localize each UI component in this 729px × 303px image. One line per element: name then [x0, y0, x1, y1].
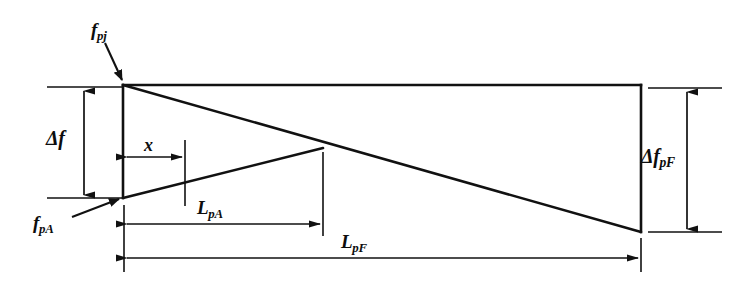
label-x: x [144, 136, 153, 154]
label-LpA: LpA [197, 198, 223, 217]
diagram-canvas [0, 0, 729, 303]
label-fpA: fpA [33, 213, 54, 232]
extension-lines [47, 87, 722, 272]
label-delta-f: Δf [46, 128, 64, 148]
leader-lines [72, 43, 122, 217]
prestress-force-diagram: fpj fpA Δf ΔfpF x LpA LpF [0, 0, 729, 303]
label-delta-f-pF-subscript: pF [659, 155, 675, 170]
diagonal-lower-line [123, 148, 323, 198]
label-fpj: fpj [91, 20, 107, 39]
label-LpF: LpF [341, 232, 367, 251]
label-delta-f-pF: ΔfpF [641, 146, 675, 166]
label-fpA-subscript: pA [39, 221, 54, 236]
label-x-base: x [144, 135, 153, 155]
label-fpj-subscript: pj [97, 28, 107, 43]
label-LpF-subscript: pF [352, 240, 367, 255]
leader-fpA [72, 199, 119, 217]
leader-fpj [105, 43, 122, 80]
label-delta-f-pF-base: Δf [641, 145, 659, 167]
label-LpF-base: L [341, 231, 352, 252]
label-LpA-base: L [197, 197, 208, 218]
label-delta-f-base: Δf [46, 127, 64, 149]
dimension-lines [84, 91, 687, 258]
label-LpA-subscript: pA [208, 206, 223, 221]
